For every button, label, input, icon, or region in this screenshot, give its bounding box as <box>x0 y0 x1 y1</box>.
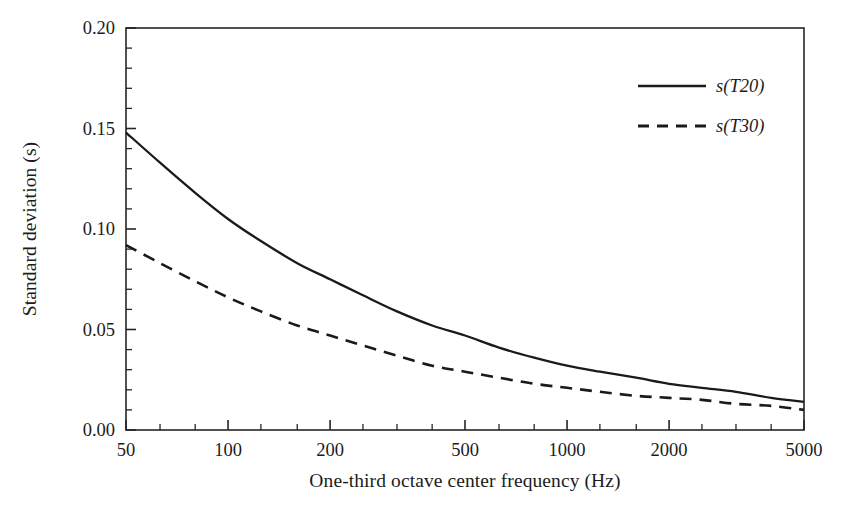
x-axis-tick-label: 100 <box>214 440 242 461</box>
x-axis-tick-label: 5000 <box>786 440 823 461</box>
plot-frame <box>126 28 804 430</box>
legend-label-st20: s(T20) <box>716 76 764 97</box>
x-axis-tick-label: 1000 <box>549 440 586 461</box>
legend-label-st30: s(T30) <box>716 116 764 137</box>
x-axis-tick-label: 2000 <box>651 440 688 461</box>
y-axis-tick-label: 0.05 <box>40 319 115 340</box>
y-axis-tick-label: 0.10 <box>40 219 115 240</box>
chart-figure: Standard deviation (s) One-third octave … <box>0 0 847 513</box>
y-axis-tick-label: 0.20 <box>40 18 115 39</box>
y-axis-tick-label: 0.00 <box>40 420 115 441</box>
x-axis-tick-label: 200 <box>316 440 344 461</box>
y-axis-tick-label: 0.15 <box>40 118 115 139</box>
x-axis-tick-label: 500 <box>451 440 479 461</box>
x-axis-tick-label: 50 <box>117 440 136 461</box>
